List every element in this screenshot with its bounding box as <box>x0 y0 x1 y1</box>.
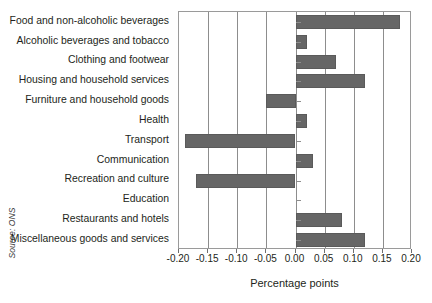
axis-row-tick <box>296 181 301 182</box>
category-label: Alcoholic beverages and tobacco <box>6 31 174 51</box>
x-tick-label: 0.00 <box>285 253 304 264</box>
category-label: Miscellaneous goods and services <box>6 229 174 249</box>
category-label: Education <box>6 189 174 209</box>
x-tick-label: -0.05 <box>254 253 277 264</box>
bar-chart: Source: ONS Food and non-alcoholic bever… <box>0 0 432 303</box>
bar <box>196 174 295 188</box>
category-label: Transport <box>6 130 174 150</box>
bars-layer <box>179 12 410 248</box>
bar <box>296 233 366 247</box>
bar <box>296 74 366 88</box>
bar <box>266 94 295 108</box>
axis-row-tick <box>296 161 301 162</box>
axis-row-tick <box>296 220 301 221</box>
category-label: Furniture and household goods <box>6 90 174 110</box>
x-tick-label: 0.15 <box>372 253 391 264</box>
bar <box>296 15 401 29</box>
x-tick-label: -0.20 <box>167 253 190 264</box>
bar <box>185 134 296 148</box>
category-label: Food and non-alcoholic beverages <box>6 11 174 31</box>
x-tick-label: 0.20 <box>401 253 420 264</box>
axis-row-tick <box>296 62 301 63</box>
category-label: Recreation and culture <box>6 170 174 190</box>
x-tick-label: 0.10 <box>343 253 362 264</box>
bar <box>296 213 343 227</box>
x-tick-label: 0.05 <box>314 253 333 264</box>
axis-row-tick <box>296 101 301 102</box>
category-label: Housing and household services <box>6 70 174 90</box>
category-label: Clothing and footwear <box>6 51 174 71</box>
x-axis-title: Percentage points <box>178 277 411 289</box>
axis-row-tick <box>296 42 301 43</box>
axis-row-tick <box>296 141 301 142</box>
x-tick-label: -0.15 <box>196 253 219 264</box>
axis-row-tick <box>296 121 301 122</box>
category-label: Restaurants and hotels <box>6 209 174 229</box>
axis-row-tick <box>296 81 301 82</box>
plot-area <box>178 11 411 249</box>
category-label: Communication <box>6 150 174 170</box>
category-axis-labels: Food and non-alcoholic beveragesAlcoholi… <box>6 11 174 249</box>
x-axis: -0.20-0.15-0.10-0.050.000.050.100.150.20 <box>178 249 411 269</box>
axis-row-tick <box>296 200 301 201</box>
axis-row-tick <box>296 22 301 23</box>
category-label: Health <box>6 110 174 130</box>
bar <box>296 55 337 69</box>
x-tick-label: -0.10 <box>225 253 248 264</box>
axis-row-tick <box>296 240 301 241</box>
